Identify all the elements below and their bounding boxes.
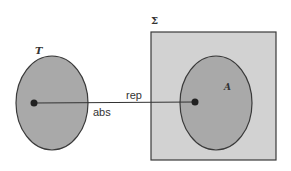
label-t: T <box>35 45 44 56</box>
set-a-ellipse <box>180 56 252 150</box>
label-a: A <box>223 82 231 92</box>
point-t-dot <box>31 100 38 107</box>
label-abs: abs <box>93 106 111 118</box>
label-rep: rep <box>126 89 142 101</box>
label-sigma: Σ <box>151 15 158 26</box>
point-a-dot <box>192 99 199 106</box>
abstraction-diagram: T Σ A rep abs <box>0 0 291 171</box>
